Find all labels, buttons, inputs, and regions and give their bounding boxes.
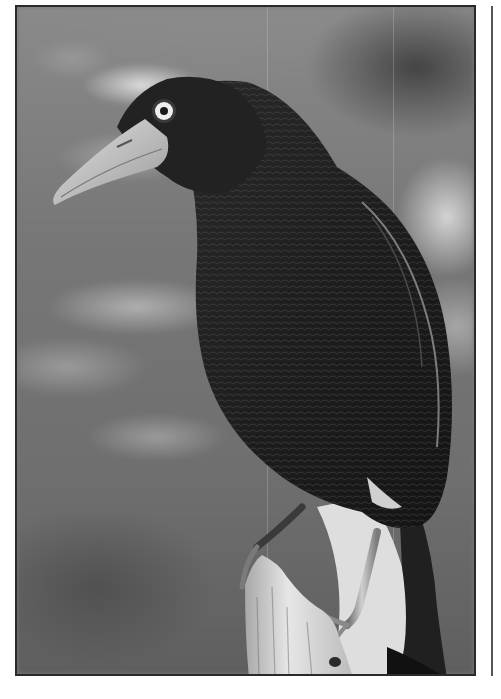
bird-illustration [17,7,476,676]
bird-bill [53,119,168,205]
side-rule-line [491,6,493,676]
bird-eye [152,99,176,123]
photo-frame [15,5,476,676]
wooden-stump [245,555,353,676]
bird-photo [17,7,474,674]
